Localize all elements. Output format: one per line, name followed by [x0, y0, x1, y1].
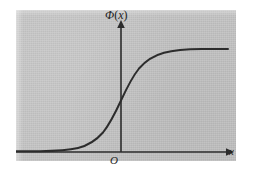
y-axis-label-close-paren: ) — [123, 8, 127, 22]
plot-svg — [16, 10, 236, 161]
figure-root: Φ(x) x O — [0, 0, 254, 177]
origin-label: O — [110, 155, 118, 166]
y-axis-label-symbol: Φ — [105, 8, 114, 22]
normal-cdf-curve — [16, 49, 228, 151]
x-axis-label: x — [229, 146, 234, 157]
plot-panel — [16, 10, 236, 161]
y-axis-label: Φ(x) — [105, 9, 127, 21]
